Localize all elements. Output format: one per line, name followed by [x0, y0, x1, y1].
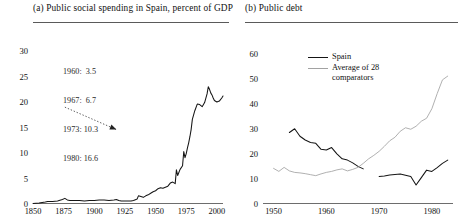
- annotation-line-1973: 1973: 10.3: [63, 125, 98, 135]
- legend-swatch-spain-icon: [308, 57, 328, 59]
- panel-b-x-tick-1960: 1960: [318, 207, 335, 216]
- panel-a-plot-area: 051015202530 185018751900192519501975200…: [33, 46, 223, 204]
- legend-label-average: Average of 28 comparators: [332, 63, 379, 83]
- panel-b-y-tick-0: 0: [254, 199, 258, 209]
- panel-b-y-tick-40: 40: [249, 99, 258, 109]
- annotation-line-1960: 1960: 3.5: [63, 67, 98, 77]
- legend-label-average-line1: Average of 28: [332, 63, 379, 72]
- panel-a-x-tick-1850: 1850: [25, 207, 42, 216]
- panel-a-annotation: 1960: 3.5 1967: 6.7 1973: 10.3 1980: 16.…: [63, 48, 98, 182]
- panel-b-series-1: [274, 76, 448, 176]
- legend-label-average-line2: comparators: [332, 73, 379, 83]
- panel-b-public-debt: (b) Public debt 0102030405060 1950196019…: [233, 0, 466, 222]
- legend-item-average-comparators: Average of 28 comparators: [308, 63, 379, 83]
- panel-a-x-tick-1950: 1950: [147, 207, 164, 216]
- panel-b-x-tick-1970: 1970: [371, 207, 388, 216]
- panel-a-y-tick-20: 20: [19, 97, 28, 107]
- panel-b-y-tick-60: 60: [249, 49, 258, 59]
- panel-a-title: (a) Public social spending in Spain, per…: [33, 3, 233, 13]
- annotation-line-1980: 1980: 16.6: [63, 154, 98, 164]
- panel-a-series-0: [33, 87, 223, 204]
- panel-b-title-rule: [245, 22, 458, 23]
- panel-b-y-tick-10: 10: [249, 174, 258, 184]
- annotation-line-1967: 1967: 6.7: [63, 96, 98, 106]
- panel-a-y-tick-30: 30: [19, 46, 28, 56]
- panel-b-series-0-segment-1: [379, 160, 448, 185]
- legend-label-spain: Spain: [332, 52, 351, 62]
- panel-a-series-svg: [33, 46, 223, 204]
- panel-a-x-tick-2000: 2000: [208, 207, 225, 216]
- panel-b-x-tick-1950: 1950: [265, 207, 282, 216]
- panel-a-annotation-arrow-head: [109, 125, 116, 130]
- legend-item-spain: Spain: [308, 52, 379, 62]
- panel-b-series-0-segment-0: [289, 129, 363, 169]
- panel-a-x-tick-1900: 1900: [86, 207, 103, 216]
- panel-a-x-tick-1925: 1925: [117, 207, 134, 216]
- panel-b-y-tick-20: 20: [249, 149, 258, 159]
- panel-a-x-tick-1975: 1975: [178, 207, 195, 216]
- panel-a-x-tick-1875: 1875: [55, 207, 72, 216]
- panel-a-y-tick-15: 15: [19, 123, 28, 133]
- panel-a-y-tick-10: 10: [19, 148, 28, 158]
- panel-a-title-rule: [33, 22, 229, 23]
- panel-b-y-tick-50: 50: [249, 74, 258, 84]
- panel-a-public-social-spending: (a) Public social spending in Spain, per…: [0, 0, 233, 222]
- panel-a-y-tick-5: 5: [24, 174, 28, 184]
- panel-b-y-tick-30: 30: [249, 124, 258, 134]
- figure-public-spending-and-debt: (a) Public social spending in Spain, per…: [0, 0, 466, 222]
- panel-b-x-tick-1980: 1980: [424, 207, 441, 216]
- legend-swatch-average-icon: [308, 68, 328, 69]
- panel-b-legend: Spain Average of 28 comparators: [308, 52, 379, 85]
- panel-b-title: (b) Public debt: [245, 3, 303, 13]
- panel-a-y-tick-25: 25: [19, 72, 28, 82]
